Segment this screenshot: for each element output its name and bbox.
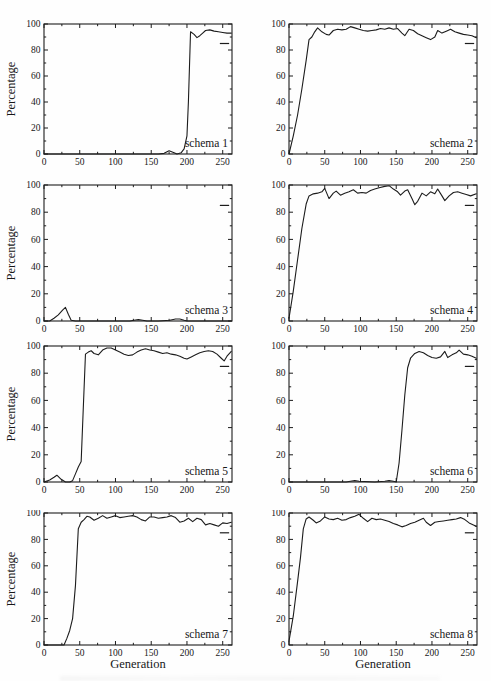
y-tick-label: 40	[276, 262, 286, 272]
plot-border	[44, 185, 232, 321]
y-tick-label: 60	[31, 561, 41, 571]
x-tick-label: 100	[108, 324, 123, 334]
schema-label: schema 3	[185, 304, 228, 316]
y-tick-label: 100	[26, 341, 41, 351]
y-tick-label: 80	[276, 535, 286, 545]
x-tick-label: 50	[75, 648, 85, 658]
schema-plots-grid: 050100150200250020406080100Percentagesch…	[0, 0, 491, 681]
y-tick-label: 60	[276, 561, 286, 571]
y-tick-label: 0	[281, 316, 286, 326]
x-tick-label: 0	[42, 485, 47, 495]
y-tick-label: 100	[26, 19, 41, 29]
x-tick-label: 100	[353, 157, 368, 167]
x-tick-label: 0	[287, 324, 292, 334]
y-tick-label: 60	[31, 396, 41, 406]
x-tick-label: 100	[108, 485, 123, 495]
x-tick-label: 50	[320, 648, 330, 658]
y-tick-label: 0	[281, 477, 286, 487]
x-tick-label: 0	[287, 648, 292, 658]
x-tick-label: 200	[180, 648, 195, 658]
y-tick-label: 60	[31, 235, 41, 245]
y-tick-label: 80	[31, 45, 41, 55]
y-tick-label: 0	[36, 477, 41, 487]
percentage-curve	[44, 348, 231, 482]
y-tick-label: 100	[26, 180, 41, 190]
y-tick-label: 20	[276, 450, 286, 460]
plot-border	[289, 513, 477, 645]
y-tick-label: 20	[31, 289, 41, 299]
x-tick-label: 50	[75, 324, 85, 334]
x-tick-label: 250	[461, 648, 476, 658]
y-tick-label: 0	[36, 640, 41, 650]
x-axis-title: Generation	[355, 657, 411, 671]
x-tick-label: 50	[320, 485, 330, 495]
x-tick-label: 150	[144, 157, 159, 167]
y-tick-label: 40	[276, 423, 286, 433]
y-tick-label: 80	[276, 207, 286, 217]
x-tick-label: 0	[42, 324, 47, 334]
schema-label: schema 2	[430, 137, 473, 149]
y-tick-label: 60	[276, 235, 286, 245]
subplot-schema-1: 050100150200250020406080100Percentagesch…	[0, 0, 245, 170]
schema-label: schema 4	[430, 304, 473, 316]
x-tick-label: 250	[216, 157, 231, 167]
y-tick-label: 40	[276, 97, 286, 107]
schema-label: schema 1	[185, 137, 228, 149]
percentage-curve	[289, 186, 476, 319]
x-tick-label: 250	[216, 648, 231, 658]
x-axis-title: Generation	[110, 657, 166, 671]
cropped-caption-fragment	[60, 676, 440, 681]
x-tick-label: 200	[425, 485, 440, 495]
y-tick-label: 100	[26, 510, 41, 518]
x-tick-label: 50	[320, 324, 330, 334]
x-tick-label: 0	[287, 157, 292, 167]
x-tick-label: 150	[389, 157, 404, 167]
y-tick-label: 0	[36, 316, 41, 326]
y-tick-label: 100	[271, 180, 286, 190]
percentage-curve	[44, 516, 231, 645]
schema-label: schema 8	[430, 628, 473, 640]
x-tick-label: 150	[389, 485, 404, 495]
y-tick-label: 60	[276, 71, 286, 81]
y-tick-label: 80	[31, 207, 41, 217]
x-tick-label: 100	[353, 648, 368, 658]
y-tick-label: 80	[276, 368, 286, 378]
y-tick-label: 20	[276, 289, 286, 299]
schema-label: schema 6	[430, 465, 473, 477]
y-tick-label: 20	[31, 614, 41, 624]
x-tick-label: 250	[461, 485, 476, 495]
x-tick-label: 200	[180, 485, 195, 495]
plot-border	[44, 513, 232, 645]
y-tick-label: 40	[31, 262, 41, 272]
subplot-schema-4: 050100150200250020406080100schema 4	[245, 170, 491, 340]
y-tick-label: 20	[31, 450, 41, 460]
percentage-curve	[289, 514, 476, 641]
x-tick-label: 100	[353, 485, 368, 495]
plot-border	[289, 24, 477, 154]
y-tick-label: 80	[31, 535, 41, 545]
y-tick-label: 100	[271, 510, 286, 518]
plot-border	[44, 24, 232, 154]
x-tick-label: 200	[180, 157, 195, 167]
y-tick-label: 20	[276, 123, 286, 133]
x-tick-label: 150	[144, 324, 159, 334]
y-tick-label: 100	[271, 19, 286, 29]
x-tick-label: 0	[287, 485, 292, 495]
subplot-schema-8: 050100150200250020406080100Generationsch…	[245, 510, 491, 681]
x-tick-label: 250	[461, 324, 476, 334]
x-tick-label: 100	[353, 324, 368, 334]
y-tick-label: 80	[276, 45, 286, 55]
y-tick-label: 0	[281, 149, 286, 159]
y-tick-label: 40	[31, 97, 41, 107]
y-tick-label: 80	[31, 368, 41, 378]
y-tick-label: 20	[276, 614, 286, 624]
x-tick-label: 50	[75, 485, 85, 495]
percentage-curve	[289, 350, 476, 482]
y-axis-title: Percentage	[4, 61, 18, 116]
x-tick-label: 100	[108, 157, 123, 167]
x-tick-label: 150	[144, 485, 159, 495]
y-tick-label: 40	[31, 587, 41, 597]
plot-border	[44, 346, 232, 482]
schema-label: schema 7	[185, 628, 228, 640]
plot-border	[289, 185, 477, 321]
